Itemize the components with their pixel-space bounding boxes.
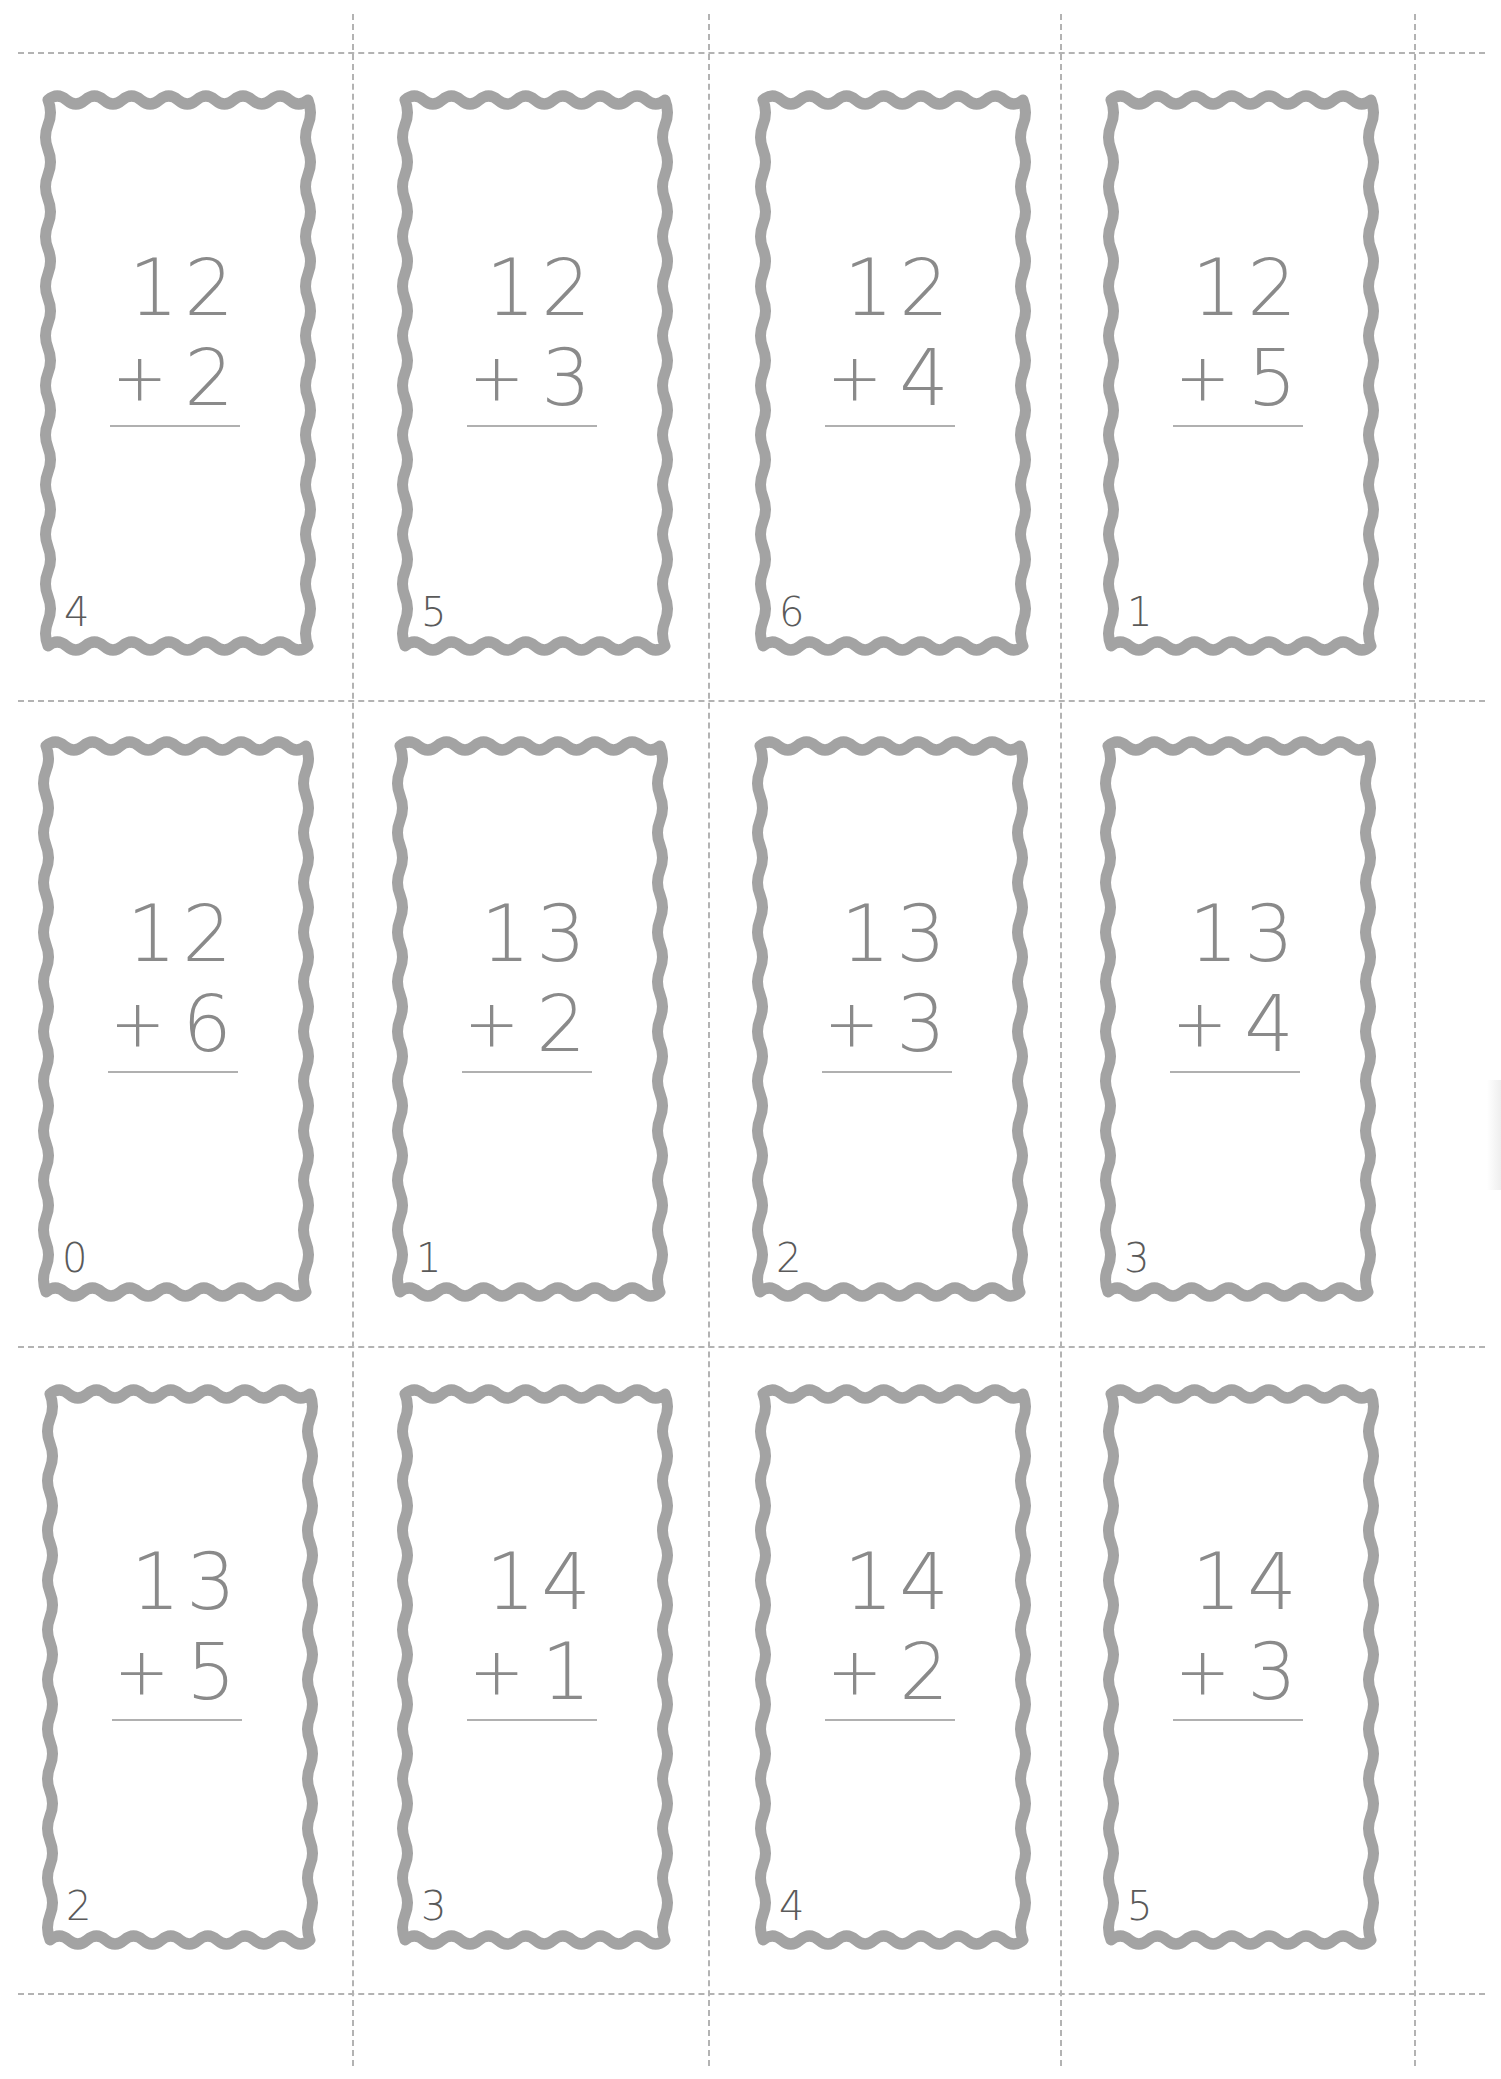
corner-number: 2: [776, 1236, 801, 1280]
plus-sign: +: [1175, 333, 1236, 423]
flash-card[interactable]: 12 + 4 6: [755, 88, 1031, 658]
flash-card[interactable]: 12 + 6 0: [38, 734, 314, 1304]
sum-underline: [108, 1071, 238, 1073]
bottom-line: + 3: [467, 333, 597, 423]
cut-line-vertical: [1060, 14, 1062, 2066]
bottom-number: 1: [541, 1627, 597, 1717]
bottom-number: 3: [541, 333, 597, 423]
top-number: 14: [825, 1537, 955, 1627]
addition-problem: 13 + 5: [112, 1537, 242, 1721]
top-number: 13: [462, 889, 592, 979]
top-number: 13: [112, 1537, 242, 1627]
sum-underline: [467, 425, 597, 427]
bottom-line: + 3: [822, 979, 952, 1069]
top-number: 12: [110, 243, 240, 333]
addition-problem: 12 + 2: [110, 243, 240, 427]
plus-sign: +: [114, 1627, 175, 1717]
bottom-line: + 2: [110, 333, 240, 423]
top-number: 14: [467, 1537, 597, 1627]
bottom-number: 4: [1244, 979, 1300, 1069]
bottom-number: 3: [1247, 1627, 1303, 1717]
bottom-line: + 2: [462, 979, 592, 1069]
flash-card[interactable]: 13 + 2 1: [392, 734, 668, 1304]
addition-problem: 12 + 3: [467, 243, 597, 427]
cut-line-vertical: [708, 14, 710, 2066]
top-number: 12: [1173, 243, 1303, 333]
bottom-number: 2: [184, 333, 240, 423]
sum-underline: [112, 1719, 242, 1721]
plus-sign: +: [110, 979, 171, 1069]
corner-number: 3: [1124, 1236, 1149, 1280]
top-number: 12: [108, 889, 238, 979]
sum-underline: [1173, 425, 1303, 427]
sum-underline: [825, 425, 955, 427]
bottom-line: + 2: [825, 1627, 955, 1717]
bottom-line: + 1: [467, 1627, 597, 1717]
bottom-number: 5: [1247, 333, 1303, 423]
flash-card-sheet: 12 + 2 4 12 + 3 5 12 + 4: [0, 0, 1501, 2079]
corner-number: 0: [62, 1236, 87, 1280]
flash-card[interactable]: 14 + 1 3: [397, 1382, 673, 1952]
corner-number: 3: [421, 1884, 446, 1928]
bottom-number: 3: [896, 979, 952, 1069]
addition-problem: 12 + 5: [1173, 243, 1303, 427]
addition-problem: 13 + 4: [1170, 889, 1300, 1073]
corner-number: 1: [416, 1236, 441, 1280]
flash-card[interactable]: 12 + 5 1: [1103, 88, 1379, 658]
bottom-line: + 5: [112, 1627, 242, 1717]
top-number: 12: [467, 243, 597, 333]
top-number: 13: [1170, 889, 1300, 979]
top-number: 14: [1173, 1537, 1303, 1627]
cut-line-horizontal: [18, 52, 1485, 54]
bottom-number: 4: [899, 333, 955, 423]
corner-number: 4: [779, 1884, 804, 1928]
sum-underline: [825, 1719, 955, 1721]
addition-problem: 14 + 2: [825, 1537, 955, 1721]
cut-line-vertical: [1414, 14, 1416, 2066]
bottom-line: + 4: [1170, 979, 1300, 1069]
addition-problem: 12 + 6: [108, 889, 238, 1073]
plus-sign: +: [827, 1627, 888, 1717]
addition-problem: 14 + 3: [1173, 1537, 1303, 1721]
addition-problem: 12 + 4: [825, 243, 955, 427]
scan-artifact: [1487, 1080, 1501, 1190]
flash-card[interactable]: 12 + 3 5: [397, 88, 673, 658]
addition-problem: 13 + 3: [822, 889, 952, 1073]
bottom-line: + 3: [1173, 1627, 1303, 1717]
plus-sign: +: [112, 333, 173, 423]
bottom-line: + 5: [1173, 333, 1303, 423]
flash-card[interactable]: 13 + 5 2: [42, 1382, 318, 1952]
corner-number: 4: [64, 590, 89, 634]
bottom-number: 2: [899, 1627, 955, 1717]
bottom-number: 5: [186, 1627, 242, 1717]
plus-sign: +: [1172, 979, 1233, 1069]
plus-sign: +: [464, 979, 525, 1069]
sum-underline: [110, 425, 240, 427]
cut-line-horizontal: [18, 1993, 1485, 1995]
flash-card[interactable]: 14 + 3 5: [1103, 1382, 1379, 1952]
plus-sign: +: [469, 333, 530, 423]
flash-card[interactable]: 13 + 3 2: [752, 734, 1028, 1304]
bottom-number: 2: [536, 979, 592, 1069]
top-number: 13: [822, 889, 952, 979]
top-number: 12: [825, 243, 955, 333]
bottom-line: + 6: [108, 979, 238, 1069]
plus-sign: +: [469, 1627, 530, 1717]
corner-number: 2: [66, 1884, 91, 1928]
sum-underline: [822, 1071, 952, 1073]
bottom-line: + 4: [825, 333, 955, 423]
sum-underline: [1173, 1719, 1303, 1721]
cut-line-vertical: [352, 14, 354, 2066]
bottom-number: 6: [182, 979, 238, 1069]
sum-underline: [1170, 1071, 1300, 1073]
flash-card[interactable]: 13 + 4 3: [1100, 734, 1376, 1304]
corner-number: 5: [421, 590, 446, 634]
flash-card[interactable]: 12 + 2 4: [40, 88, 316, 658]
addition-problem: 13 + 2: [462, 889, 592, 1073]
corner-number: 5: [1127, 1884, 1152, 1928]
cut-line-horizontal: [18, 1346, 1485, 1348]
plus-sign: +: [1175, 1627, 1236, 1717]
corner-number: 6: [779, 590, 804, 634]
sum-underline: [462, 1071, 592, 1073]
flash-card[interactable]: 14 + 2 4: [755, 1382, 1031, 1952]
